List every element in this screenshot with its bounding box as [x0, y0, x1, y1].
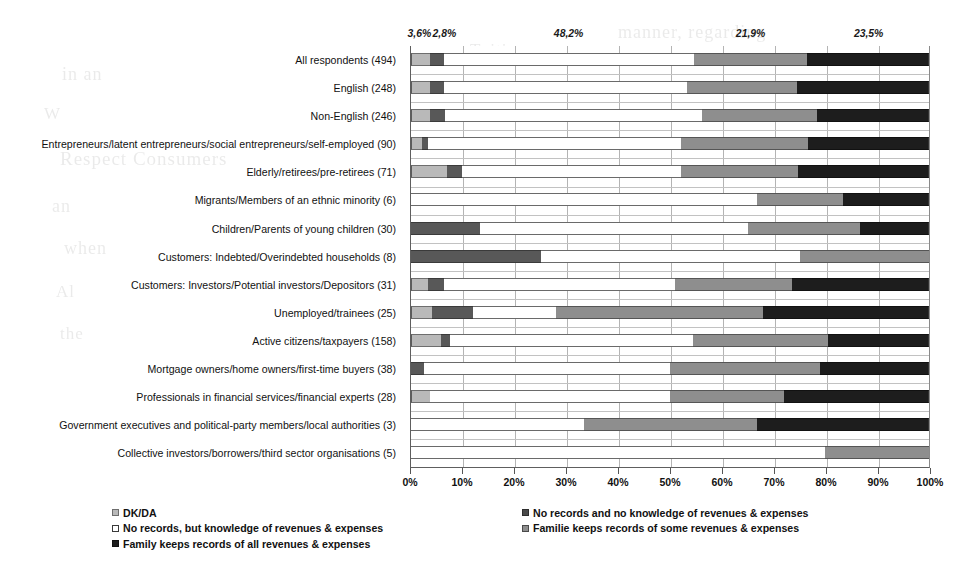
- value-annotation: 3,6%: [408, 28, 432, 39]
- legend-swatch-some-records-icon: [522, 525, 529, 532]
- bar-segment-some_records: [800, 250, 930, 263]
- bar-segment-all_records: [860, 222, 929, 235]
- x-axis-tick: [670, 468, 671, 474]
- category-label: Active citizens/taxpayers (158): [0, 327, 402, 355]
- stacked-bar-chart: 3,6%2,8%48,2%21,9%23,5% All respondents …: [0, 0, 959, 571]
- value-annotation: 2,8%: [432, 28, 456, 39]
- bar-segment-no_records_but_knowledge: [430, 390, 670, 403]
- category-label: Unemployed/trainees (25): [0, 299, 402, 327]
- bar-segment-all_records: [763, 306, 929, 319]
- category-label: Non-English (246): [0, 102, 402, 130]
- bar-segment-no_records_but_knowledge: [450, 334, 693, 347]
- bar-segment-no_records_no_knowledge: [430, 53, 444, 66]
- bar-row: [411, 299, 929, 327]
- stacked-bar: [411, 362, 929, 375]
- bar-segment-all_records: [808, 137, 929, 150]
- legend-swatch-all-records-icon: [112, 540, 119, 547]
- stacked-bar: [411, 390, 929, 403]
- x-axis-tick: [930, 468, 931, 474]
- category-label: All respondents (494): [0, 46, 402, 74]
- bar-segment-some_records: [693, 334, 828, 347]
- bar-segment-no_records_but_knowledge: [428, 137, 681, 150]
- bar-row: [411, 102, 929, 130]
- bar-segment-no_records_but_knowledge: [462, 165, 681, 178]
- bar-segment-some_records: [556, 306, 763, 319]
- bar-segment-some_records: [702, 109, 818, 122]
- category-label: English (248): [0, 74, 402, 102]
- bar-segment-some_records: [675, 278, 792, 291]
- bar-segment-dk: [411, 278, 428, 291]
- legend-item-no-records-no-knowledge: No records and no knowledge of revenues …: [522, 505, 809, 521]
- bar-segment-all_records: [792, 278, 929, 291]
- stacked-bar: [411, 446, 929, 459]
- category-label: Customers: Investors/Potential investors…: [0, 271, 402, 299]
- legend-item-dk: DK/DA: [112, 505, 383, 521]
- category-label: Government executives and political-part…: [0, 411, 402, 439]
- x-axis-tick-labels: 0%10%20%30%40%50%60%70%80%90%100%: [410, 476, 930, 492]
- x-axis-tick-label: 100%: [917, 476, 944, 488]
- bar-segment-no_records_no_knowledge: [411, 222, 480, 235]
- bar-segment-no_records_no_knowledge: [441, 334, 451, 347]
- bar-row: [411, 215, 929, 243]
- category-axis-labels: All respondents (494)English (248)Non-En…: [0, 46, 402, 467]
- bar-segment-no_records_no_knowledge: [428, 278, 445, 291]
- x-axis-tick: [826, 468, 827, 474]
- value-annotation: 48,2%: [554, 28, 583, 39]
- stacked-bar: [411, 334, 929, 347]
- bar-segment-dk: [411, 81, 430, 94]
- bar-segment-all_records: [807, 53, 929, 66]
- value-annotation: 21,9%: [736, 28, 765, 39]
- x-axis-tick-label: 60%: [711, 476, 732, 488]
- x-axis-tick-label: 90%: [867, 476, 888, 488]
- x-axis-tick: [722, 468, 723, 474]
- bar-segment-some_records: [670, 390, 784, 403]
- bar-segment-all_records: [797, 81, 929, 94]
- bar-segment-no_records_but_knowledge: [480, 222, 748, 235]
- x-axis-tick-label: 50%: [659, 476, 680, 488]
- bar-segment-dk: [411, 137, 422, 150]
- bar-row: [411, 439, 929, 467]
- value-annotations: 3,6%2,8%48,2%21,9%23,5%: [410, 28, 930, 46]
- x-axis-tick: [618, 468, 619, 474]
- bar-row: [411, 158, 929, 186]
- bar-row: [411, 243, 929, 271]
- stacked-bar: [411, 278, 929, 291]
- stacked-bar: [411, 222, 929, 235]
- bar-segment-no_records_but_knowledge: [444, 81, 686, 94]
- bar-segment-dk: [411, 165, 447, 178]
- bar-segment-all_records: [828, 334, 929, 347]
- legend-label-no-records-but-knowledge: No records, but knowledge of revenues & …: [123, 522, 383, 534]
- bar-row: [411, 46, 929, 74]
- bar-segment-some_records: [757, 193, 843, 206]
- x-axis-tick: [514, 468, 515, 474]
- value-annotation: 23,5%: [854, 28, 883, 39]
- legend-item-all-records: Family keeps records of all revenues & e…: [112, 536, 383, 552]
- bar-row: [411, 383, 929, 411]
- bar-segment-no_records_no_knowledge: [432, 306, 473, 319]
- category-label: Elderly/retirees/pre-retirees (71): [0, 158, 402, 186]
- bar-segment-no_records_but_knowledge: [473, 306, 556, 319]
- bar-segment-no_records_no_knowledge: [430, 81, 444, 94]
- bar-segment-all_records: [817, 109, 929, 122]
- category-label: Professionals in financial services/fina…: [0, 383, 402, 411]
- bar-segment-some_records: [694, 53, 807, 66]
- bar-rows: [411, 46, 929, 467]
- legend-label-dk: DK/DA: [123, 507, 157, 519]
- category-label: Mortgage owners/home owners/first-time b…: [0, 355, 402, 383]
- x-axis-tick: [878, 468, 879, 474]
- bar-segment-some_records: [687, 81, 798, 94]
- plot-area: [410, 46, 930, 468]
- bar-segment-all_records: [843, 193, 930, 206]
- bar-segment-no_records_no_knowledge: [430, 109, 444, 122]
- bar-segment-all_records: [784, 390, 929, 403]
- stacked-bar: [411, 250, 929, 263]
- category-label: Customers: Indebted/Overindebted househo…: [0, 243, 402, 271]
- stacked-bar: [411, 53, 929, 66]
- stacked-bar: [411, 418, 929, 431]
- bar-segment-dk: [411, 390, 430, 403]
- legend-label-some-records: Familie keeps records of some revenues &…: [533, 522, 799, 534]
- stacked-bar: [411, 306, 929, 319]
- legend-swatch-no-records-no-knowledge-icon: [522, 509, 529, 516]
- legend-item-some-records: Familie keeps records of some revenues &…: [522, 521, 809, 537]
- bar-segment-some_records: [681, 165, 798, 178]
